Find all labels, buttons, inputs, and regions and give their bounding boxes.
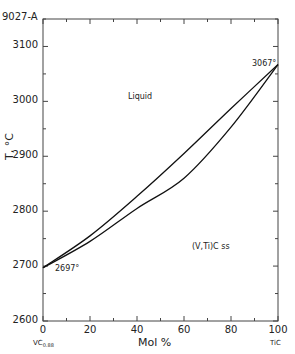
annotation-label: 3067° <box>252 59 276 68</box>
left-end-formula: VC <box>33 339 43 347</box>
y-tick-label: 2800 <box>6 204 38 215</box>
y-tick-label: 2700 <box>6 259 38 270</box>
liquidus-curve <box>43 65 278 268</box>
y-tick-label: 2900 <box>6 149 38 160</box>
figure-id-label: 9027-A <box>2 11 38 22</box>
x-tick-label: 60 <box>169 324 199 335</box>
x-tick-label: 0 <box>28 324 58 335</box>
annotation-label: 2697° <box>55 264 79 273</box>
left-end-subscript: 0.88 <box>43 342 54 348</box>
phase-diagram-plot <box>0 0 295 354</box>
x-tick-label: 80 <box>216 324 246 335</box>
x-tick-label: 100 <box>263 324 293 335</box>
x-axis-label: Mol % <box>138 336 171 349</box>
left-end-component-label: VC0.88 <box>33 339 54 348</box>
plot-frame <box>43 19 278 321</box>
y-tick-label: 3100 <box>6 39 38 50</box>
annotation-label: (V,Ti)C ss <box>192 242 230 251</box>
y-tick-label: 3000 <box>6 94 38 105</box>
annotation-label: Liquid <box>128 92 152 101</box>
solidus-curve <box>43 65 278 268</box>
x-tick-label: 20 <box>75 324 105 335</box>
x-tick-label: 40 <box>122 324 152 335</box>
right-end-component-label: TiC <box>270 339 281 347</box>
